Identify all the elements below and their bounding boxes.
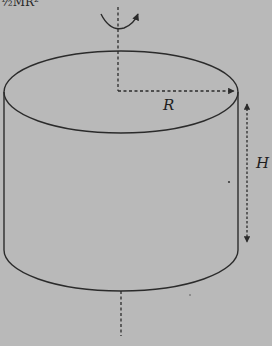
- cylinder-top-face: [4, 51, 238, 133]
- radius-label: R: [162, 96, 174, 114]
- cylinder-bottom-edge: [4, 250, 238, 291]
- speck-mark: [189, 294, 191, 296]
- caption-fragment: ½MR²: [1, 0, 39, 9]
- height-label: H: [255, 154, 270, 172]
- speck-mark: [228, 181, 230, 183]
- cylinder-diagram: ½MR² R H: [0, 0, 272, 346]
- rotation-arrow-icon: [101, 14, 138, 29]
